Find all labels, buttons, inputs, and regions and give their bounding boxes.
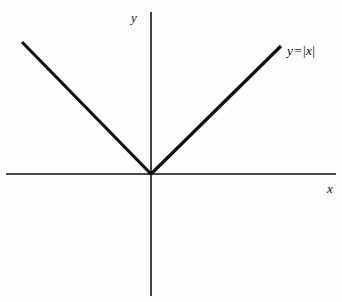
x-axis-label: x [327, 182, 333, 195]
absolute-value-graph-figure: y x y=|x| [0, 0, 342, 302]
absolute-value-left-ray [22, 42, 151, 174]
equation-equals-sign: = [293, 43, 303, 58]
equation-bar-close: | [312, 43, 315, 58]
y-axis-label: y [131, 11, 137, 24]
curve-equation-label: y=|x| [287, 44, 315, 58]
absolute-value-right-ray [151, 46, 281, 174]
